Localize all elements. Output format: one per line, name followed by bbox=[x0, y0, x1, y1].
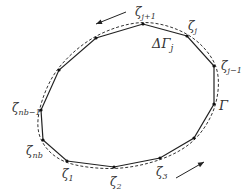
vertex-point bbox=[192, 136, 195, 139]
smooth-contour-curve bbox=[38, 23, 219, 169]
arrow-top-icon bbox=[96, 12, 126, 24]
segment-label: ΔΓj bbox=[151, 36, 173, 53]
vertex-point bbox=[141, 22, 144, 25]
vertex-point bbox=[212, 102, 215, 105]
vertex-point bbox=[212, 64, 215, 67]
vertex-points bbox=[39, 22, 215, 168]
vertex-point bbox=[112, 165, 115, 168]
vertex-point bbox=[65, 159, 68, 162]
vertex-label-zeta_nb: ζnb bbox=[26, 144, 43, 160]
vertex-label-zeta_3: ζ3 bbox=[156, 165, 168, 181]
arrow-bottom-icon bbox=[176, 162, 204, 178]
vertex-point bbox=[41, 138, 44, 141]
vertex-point bbox=[158, 156, 161, 159]
contour-diagram: ζ1ζ2ζ3ζj−1ζjζj+1ζnb−1ζnb Γ ΔΓj bbox=[0, 0, 251, 193]
vertex-label-zeta_nb_minus_1: ζnb−1 bbox=[12, 101, 41, 117]
vertex-label-zeta_1: ζ1 bbox=[62, 167, 74, 183]
vertex-label-zeta_j: ζj bbox=[188, 19, 198, 35]
vertex-label-zeta_2: ζ2 bbox=[110, 175, 122, 191]
vertex-point bbox=[94, 36, 97, 39]
vertex-label-zeta_j_minus_1: ζj−1 bbox=[221, 59, 242, 75]
vertex-point bbox=[57, 68, 60, 71]
contour-label: Γ bbox=[218, 98, 229, 113]
vertex-label-zeta_j_plus_1: ζj+1 bbox=[135, 5, 156, 21]
vertex-point bbox=[185, 34, 188, 37]
